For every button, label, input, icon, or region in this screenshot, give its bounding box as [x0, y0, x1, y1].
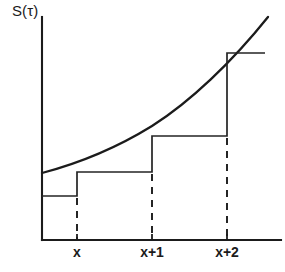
x-tick-label-x: x: [73, 245, 81, 259]
plot-canvas: [0, 0, 285, 272]
curve-s-tau: [42, 17, 268, 173]
x-tick-label-x-plus-1: x+1: [140, 245, 164, 259]
x-tick-label-x-plus-2: x+2: [215, 245, 239, 259]
figure-container: S(τ) x x+1 x+2: [0, 0, 285, 272]
y-axis-label: S(τ): [12, 3, 38, 18]
